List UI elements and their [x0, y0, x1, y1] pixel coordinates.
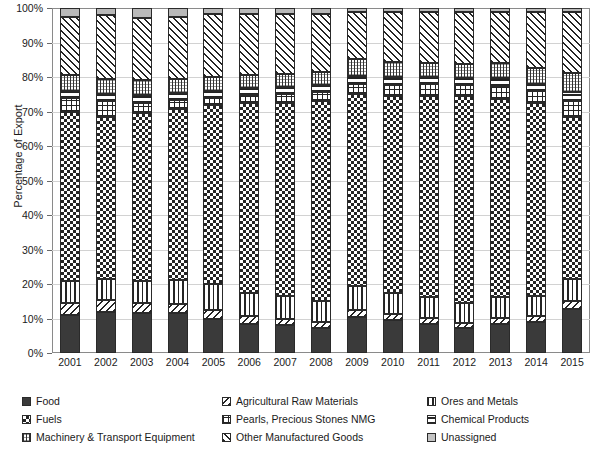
bar-segment-other-manufactured-goods-2003[interactable]: [132, 18, 152, 80]
bar-segment-machinery-transport-equipment-2009[interactable]: [347, 59, 367, 76]
bar-segment-fuels-2011[interactable]: [419, 96, 439, 298]
bar-segment-chemical-products-2001[interactable]: [60, 91, 80, 98]
bar-segment-chemical-products-2013[interactable]: [490, 78, 510, 86]
bar-segment-pearls-precious-stones-nmg-2014[interactable]: [526, 91, 546, 103]
legend-item-ores-and-metals[interactable]: Ores and Metals: [427, 395, 582, 407]
bar-segment-ores-and-metals-2005[interactable]: [203, 284, 223, 310]
legend-item-fuels[interactable]: Fuels: [22, 413, 222, 425]
bar-segment-machinery-transport-equipment-2010[interactable]: [383, 62, 403, 78]
bar-2004[interactable]: [168, 8, 188, 353]
bar-segment-other-manufactured-goods-2007[interactable]: [275, 14, 295, 73]
bar-segment-unassigned-2002[interactable]: [96, 8, 116, 15]
bar-segment-pearls-precious-stones-nmg-2012[interactable]: [454, 85, 474, 96]
bar-segment-chemical-products-2007[interactable]: [275, 87, 295, 94]
bar-segment-ores-and-metals-2008[interactable]: [311, 301, 331, 322]
bar-segment-agricultural-raw-materials-2002[interactable]: [96, 300, 116, 312]
bar-segment-fuels-2006[interactable]: [239, 103, 259, 293]
bar-2008[interactable]: [311, 8, 331, 353]
bar-segment-pearls-precious-stones-nmg-2004[interactable]: [168, 100, 188, 109]
bar-2012[interactable]: [454, 8, 474, 353]
bar-2011[interactable]: [419, 8, 439, 353]
legend-item-machinery-transport-equipment[interactable]: Machinery & Transport Equipment: [22, 431, 222, 443]
legend-item-agricultural-raw-materials[interactable]: Agricultural Raw Materials: [222, 395, 427, 407]
bar-segment-other-manufactured-goods-2014[interactable]: [526, 12, 546, 69]
bar-2003[interactable]: [132, 8, 152, 353]
bar-segment-food-2006[interactable]: [239, 324, 259, 353]
bar-segment-other-manufactured-goods-2010[interactable]: [383, 12, 403, 62]
bar-segment-chemical-products-2014[interactable]: [526, 84, 546, 92]
bar-segment-fuels-2014[interactable]: [526, 103, 546, 296]
bar-segment-other-manufactured-goods-2005[interactable]: [203, 14, 223, 78]
bar-segment-fuels-2001[interactable]: [60, 112, 80, 281]
bar-segment-machinery-transport-equipment-2011[interactable]: [419, 63, 439, 77]
bar-segment-chemical-products-2008[interactable]: [311, 85, 331, 92]
bar-segment-food-2005[interactable]: [203, 319, 223, 353]
bar-2013[interactable]: [490, 8, 510, 353]
bar-segment-ores-and-metals-2001[interactable]: [60, 281, 80, 303]
bar-segment-food-2007[interactable]: [275, 325, 295, 353]
bar-segment-unassigned-2003[interactable]: [132, 8, 152, 18]
bar-segment-fuels-2015[interactable]: [562, 117, 582, 279]
bar-2006[interactable]: [239, 8, 259, 353]
bar-segment-chemical-products-2015[interactable]: [562, 92, 582, 102]
bar-segment-pearls-precious-stones-nmg-2003[interactable]: [132, 103, 152, 113]
legend-item-unassigned[interactable]: Unassigned: [427, 431, 582, 443]
bar-segment-pearls-precious-stones-nmg-2008[interactable]: [311, 92, 331, 101]
bar-segment-ores-and-metals-2011[interactable]: [419, 297, 439, 318]
bar-segment-other-manufactured-goods-2002[interactable]: [96, 15, 116, 79]
bar-2010[interactable]: [383, 8, 403, 353]
bar-segment-pearls-precious-stones-nmg-2011[interactable]: [419, 84, 439, 96]
bar-segment-chemical-products-2006[interactable]: [239, 88, 259, 95]
bar-2005[interactable]: [203, 8, 223, 353]
bar-segment-machinery-transport-equipment-2015[interactable]: [562, 73, 582, 92]
bar-segment-ores-and-metals-2006[interactable]: [239, 293, 259, 316]
bar-segment-pearls-precious-stones-nmg-2001[interactable]: [60, 98, 80, 112]
bar-segment-ores-and-metals-2004[interactable]: [168, 280, 188, 304]
bar-segment-agricultural-raw-materials-2007[interactable]: [275, 319, 295, 326]
bar-segment-food-2008[interactable]: [311, 328, 331, 353]
bar-segment-unassigned-2004[interactable]: [168, 8, 188, 17]
bar-segment-machinery-transport-equipment-2006[interactable]: [239, 75, 259, 89]
bar-segment-chemical-products-2004[interactable]: [168, 93, 188, 101]
bar-segment-food-2013[interactable]: [490, 324, 510, 353]
bar-segment-pearls-precious-stones-nmg-2002[interactable]: [96, 101, 116, 117]
bar-segment-other-manufactured-goods-2001[interactable]: [60, 17, 80, 76]
bar-segment-agricultural-raw-materials-2009[interactable]: [347, 310, 367, 317]
bar-2002[interactable]: [96, 8, 116, 353]
bar-segment-fuels-2013[interactable]: [490, 99, 510, 297]
bar-segment-machinery-transport-equipment-2004[interactable]: [168, 79, 188, 93]
bar-segment-fuels-2004[interactable]: [168, 109, 188, 280]
bar-segment-food-2011[interactable]: [419, 324, 439, 353]
bar-segment-machinery-transport-equipment-2008[interactable]: [311, 72, 331, 86]
bar-segment-chemical-products-2010[interactable]: [383, 77, 403, 85]
bar-2014[interactable]: [526, 8, 546, 353]
bar-segment-other-manufactured-goods-2011[interactable]: [419, 12, 439, 63]
bar-segment-pearls-precious-stones-nmg-2005[interactable]: [203, 98, 223, 105]
bar-segment-pearls-precious-stones-nmg-2009[interactable]: [347, 84, 367, 94]
bar-segment-agricultural-raw-materials-2015[interactable]: [562, 301, 582, 309]
bar-segment-food-2009[interactable]: [347, 317, 367, 353]
legend-item-other-manufactured-goods[interactable]: Other Manufactured Goods: [222, 431, 427, 443]
bar-segment-unassigned-2001[interactable]: [60, 8, 80, 17]
bar-segment-agricultural-raw-materials-2005[interactable]: [203, 310, 223, 319]
bar-segment-chemical-products-2009[interactable]: [347, 76, 367, 84]
bar-segment-agricultural-raw-materials-2001[interactable]: [60, 303, 80, 315]
bar-segment-food-2003[interactable]: [132, 313, 152, 353]
bar-segment-pearls-precious-stones-nmg-2006[interactable]: [239, 95, 259, 103]
bar-segment-food-2014[interactable]: [526, 322, 546, 353]
legend-item-food[interactable]: Food: [22, 395, 222, 407]
bar-segment-fuels-2005[interactable]: [203, 105, 223, 284]
bar-segment-ores-and-metals-2003[interactable]: [132, 281, 152, 303]
bar-segment-other-manufactured-goods-2009[interactable]: [347, 12, 367, 60]
bar-segment-machinery-transport-equipment-2003[interactable]: [132, 80, 152, 96]
bar-2009[interactable]: [347, 8, 367, 353]
bar-segment-ores-and-metals-2010[interactable]: [383, 293, 403, 314]
bar-segment-chemical-products-2003[interactable]: [132, 95, 152, 103]
bar-segment-fuels-2002[interactable]: [96, 117, 116, 279]
bar-segment-pearls-precious-stones-nmg-2007[interactable]: [275, 94, 295, 103]
bar-segment-ores-and-metals-2015[interactable]: [562, 279, 582, 301]
bar-segment-other-manufactured-goods-2004[interactable]: [168, 17, 188, 79]
bar-segment-agricultural-raw-materials-2003[interactable]: [132, 303, 152, 313]
bar-segment-pearls-precious-stones-nmg-2010[interactable]: [383, 85, 403, 96]
bar-2007[interactable]: [275, 8, 295, 353]
